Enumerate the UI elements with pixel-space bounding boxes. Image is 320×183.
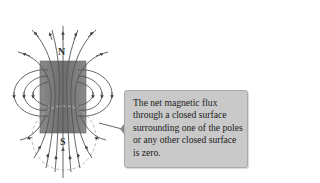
- callout-text: The net magnetic flux through a closed s…: [133, 97, 243, 158]
- callout-box: The net magnetic flux through a closed s…: [124, 90, 248, 168]
- south-pole-label: S: [60, 136, 66, 147]
- north-pole-label: N: [58, 46, 66, 57]
- callout-pointer: [99, 123, 122, 129]
